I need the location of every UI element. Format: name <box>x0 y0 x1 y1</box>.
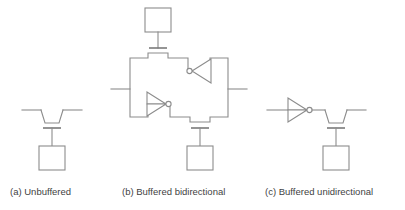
panel-c-group <box>267 98 366 170</box>
panel-b-inverter-top-bubble-icon <box>187 68 192 73</box>
schematic-canvas <box>0 0 405 210</box>
panel-c-inverter-upper-half <box>288 98 307 110</box>
figure-root: (a) Unbuffered (b) Buffered bidirectiona… <box>0 0 405 210</box>
panel-a-bond-pad <box>39 146 65 170</box>
caption-unbuffered: (a) Unbuffered <box>10 186 71 197</box>
panel-b-top-bond-pad <box>145 8 171 32</box>
panel-b-bottom-bond-pad <box>187 146 213 170</box>
panel-b-inverter-bottom-left-to-right <box>147 92 166 104</box>
panel-b-group <box>111 8 247 170</box>
panel-b-inverter-bottom-bubble-icon <box>166 101 171 106</box>
caption-buffered-bidirectional: (b) Buffered bidirectional <box>122 186 225 197</box>
panel-c-bond-pad <box>323 146 349 170</box>
panel-a-transistor-channel <box>41 110 63 123</box>
panel-c-inverter-lower-half <box>288 110 307 122</box>
panel-b-ring-conductor <box>130 53 228 122</box>
panel-b-inverter-top-right-to-left <box>192 59 211 83</box>
panel-a-group <box>22 110 82 170</box>
panel-c-inverter-bubble-icon <box>307 107 312 112</box>
caption-buffered-unidirectional: (c) Buffered unidirectional <box>265 186 373 197</box>
panel-c-transistor-channel <box>325 110 347 123</box>
panel-b-inverter-bottom-lower-half <box>147 104 166 116</box>
